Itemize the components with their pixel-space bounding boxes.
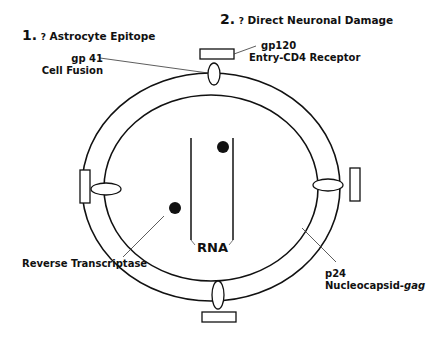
header-question-mark: ?	[41, 32, 46, 42]
header-text: Astrocyte Epitope	[50, 30, 156, 42]
gp41-function: Cell Fusion	[40, 65, 103, 77]
p24-function-gag: gag	[404, 280, 425, 291]
label-rna: RNA	[197, 242, 228, 254]
p24-name: p24	[325, 268, 425, 280]
gp120-right	[350, 168, 360, 201]
gp41-bottom	[212, 281, 224, 309]
rt-leader	[123, 216, 164, 257]
rna-bracket-left	[191, 240, 195, 245]
gp120-bottom	[202, 312, 236, 322]
header-number: 1.	[22, 27, 37, 43]
p24-leader	[302, 228, 336, 262]
reverse-transcriptase-dot-1	[217, 141, 229, 153]
header-question-mark: ?	[239, 16, 244, 26]
label-p24: p24 Nucleocapsid-gag	[325, 268, 425, 292]
gp41-top	[208, 63, 220, 85]
reverse-transcriptase-dot-2	[169, 202, 181, 214]
gp41-name: gp 41	[40, 53, 103, 65]
gp120-function: Entry-CD4 Receptor	[249, 52, 360, 64]
label-gp120: gp120 Entry-CD4 Receptor	[249, 40, 360, 64]
header-direct-neuronal-damage: 2. ? Direct Neuronal Damage	[220, 13, 393, 27]
gp120-left	[80, 170, 90, 203]
p24-function: Nucleocapsid-gag	[325, 280, 425, 292]
gp120-name: gp120	[249, 40, 360, 52]
p24-function-prefix: Nucleocapsid-	[325, 280, 404, 291]
header-text: Direct Neuronal Damage	[248, 14, 394, 26]
gp41-right	[313, 179, 343, 191]
rna-bracket-right	[229, 240, 233, 245]
gp120-top	[200, 49, 234, 59]
label-gp41: gp 41 Cell Fusion	[40, 53, 103, 77]
gp41-left	[91, 183, 121, 195]
header-number: 2.	[220, 11, 235, 27]
label-reverse-transcriptase: Reverse Transcriptase	[22, 258, 147, 270]
gp41-leader	[100, 58, 208, 73]
header-astrocyte-epitope: 1. ? Astrocyte Epitope	[22, 29, 155, 43]
